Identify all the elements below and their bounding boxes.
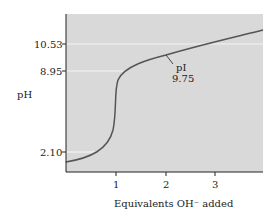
pi-label: pI	[176, 63, 186, 73]
x-tick-3: 3	[212, 180, 218, 190]
x-axis-label: Equivalents OH⁻ added	[114, 199, 233, 209]
y-tick-8.95: 8.95	[40, 67, 62, 77]
y-axis-label: pH	[17, 90, 32, 100]
y-tick-2.10: 2.10	[40, 148, 62, 158]
y-tick-10.53: 10.53	[34, 40, 63, 50]
chart-canvas	[0, 0, 269, 217]
x-tick-1: 1	[113, 180, 119, 190]
pi-value: 9.75	[172, 74, 194, 84]
titration-chart: 10.53 8.95 2.10 pH 1 2 3 Equivalents OH⁻…	[0, 0, 269, 217]
x-tick-2: 2	[163, 180, 169, 190]
